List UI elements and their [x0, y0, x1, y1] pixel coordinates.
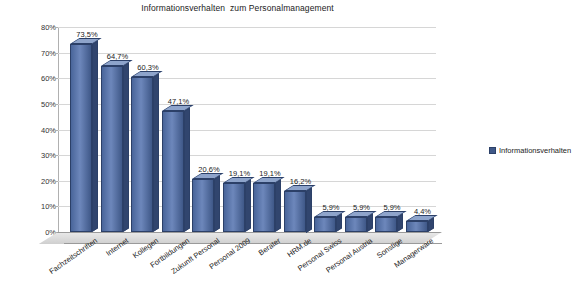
y-axis-tick-label: 10%: [16, 202, 56, 211]
y-axis-tick-mark: [55, 130, 58, 131]
bar-value-label: 73,5%: [64, 30, 110, 39]
bar[interactable]: 60,3%: [131, 77, 153, 232]
bar-side-face: [397, 213, 403, 232]
bar-front-face: [253, 183, 275, 232]
x-axis-label: Managerware: [331, 236, 434, 298]
bar[interactable]: 64,7%: [101, 66, 123, 232]
y-axis-tick-label: 60%: [16, 74, 56, 83]
gridline: [58, 27, 436, 28]
y-axis-tick-mark: [55, 27, 58, 28]
bar-front-face: [70, 44, 92, 232]
bar-value-label: 4,4%: [400, 207, 446, 216]
bar-side-face: [123, 62, 129, 232]
bar-front-face: [162, 111, 184, 232]
bar[interactable]: 19,1%: [223, 183, 245, 232]
bar-side-face: [245, 179, 251, 232]
bar[interactable]: 19,1%: [253, 183, 275, 232]
chart-container: Informationsverhalten zum Personalmanage…: [0, 0, 572, 298]
y-axis-tick-mark: [55, 181, 58, 182]
bar-side-face: [92, 40, 98, 232]
chart-title: Informationsverhalten zum Personalmanage…: [0, 3, 475, 13]
y-axis-tick-label: 20%: [16, 176, 56, 185]
y-axis-tick-mark: [55, 53, 58, 54]
plot-area: 0%10%20%30%40%50%60%70%80% 73,5%64,7%60,…: [58, 27, 436, 232]
legend-label: Informationsverhalten: [499, 146, 571, 155]
bar[interactable]: 73,5%: [70, 44, 92, 232]
bar-front-face: [375, 217, 397, 232]
bar-front-face: [223, 183, 245, 232]
y-axis-tick-label: 50%: [16, 99, 56, 108]
bar-side-face: [214, 175, 220, 232]
bar-value-label: 16,2%: [278, 177, 324, 186]
y-axis-tick-label: 0%: [16, 228, 56, 237]
y-axis-tick-label: 70%: [16, 48, 56, 57]
bar[interactable]: 20,6%: [192, 179, 214, 232]
y-axis-tick-label: 40%: [16, 125, 56, 134]
bar[interactable]: 5,9%: [375, 217, 397, 232]
bar-side-face: [275, 179, 281, 232]
y-axis-tick-label: 30%: [16, 151, 56, 160]
y-axis-tick-mark: [55, 78, 58, 79]
legend: Informationsverhalten: [489, 146, 571, 155]
y-axis-tick-mark: [55, 155, 58, 156]
y-axis-tick-label: 80%: [16, 23, 56, 32]
y-axis-tick-mark: [55, 104, 58, 105]
bar-front-face: [131, 77, 153, 232]
bar[interactable]: 4,4%: [406, 221, 428, 232]
bar[interactable]: 5,9%: [345, 217, 367, 232]
legend-swatch-icon: [489, 147, 496, 154]
bar-side-face: [336, 213, 342, 232]
bar[interactable]: 16,2%: [284, 191, 306, 233]
bar-value-label: 47,1%: [156, 97, 202, 106]
bar-front-face: [345, 217, 367, 232]
bar-side-face: [367, 213, 373, 232]
bar-value-label: 60,3%: [125, 63, 171, 72]
bar-value-label: 64,7%: [95, 52, 141, 61]
bar-front-face: [192, 179, 214, 232]
bar[interactable]: 5,9%: [314, 217, 336, 232]
bar[interactable]: 47,1%: [162, 111, 184, 232]
bar-front-face: [314, 217, 336, 232]
bar-front-face: [406, 221, 428, 232]
y-axis-tick-mark: [55, 206, 58, 207]
bar-front-face: [284, 191, 306, 233]
bar-front-face: [101, 66, 123, 232]
bar-side-face: [428, 217, 434, 232]
